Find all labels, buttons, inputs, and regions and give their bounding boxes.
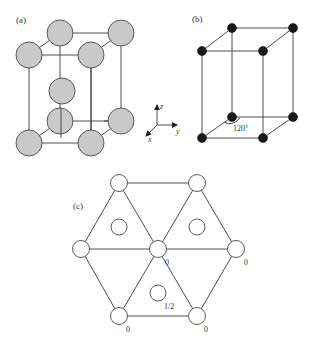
atom-interior-right	[189, 219, 205, 235]
atom-vertex	[189, 175, 206, 192]
panel-a-atoms	[16, 20, 134, 156]
coordinate-axes: z y x	[146, 102, 180, 144]
x-axis-label: x	[147, 135, 152, 144]
lattice-point	[259, 47, 268, 56]
y-axis-label: y	[175, 127, 180, 136]
atom-bottom-front-left	[16, 130, 42, 156]
atom-vertex	[73, 241, 90, 258]
height-label-right: 0	[244, 258, 248, 267]
panel-a-label: (a)	[16, 15, 26, 25]
lattice-point	[289, 24, 298, 33]
lattice-point	[198, 134, 207, 143]
atom-interior-left	[111, 219, 127, 235]
lattice-point	[228, 113, 237, 122]
atom-top-front-left	[16, 42, 42, 68]
crystal-structure-figure: (a)	[0, 0, 312, 343]
height-label-inner-bottom: 1/2	[164, 302, 174, 311]
panel-c: (c) 0 0	[73, 175, 249, 335]
atom-vertex	[228, 241, 245, 258]
lattice-point	[198, 47, 207, 56]
panel-c-label: (c)	[73, 201, 83, 211]
atom-top-front-right	[78, 42, 104, 68]
lattice-point	[228, 24, 237, 33]
atom-bottom-back-right	[108, 108, 134, 134]
atom-vertex	[111, 175, 128, 192]
lattice-point	[259, 134, 268, 143]
height-label-bottom-right: 0	[204, 325, 208, 334]
atom-top-back-left	[47, 20, 73, 46]
height-label-bottom-left: 0	[126, 325, 130, 334]
atom-bottom-back-left	[47, 108, 73, 134]
height-label-center: 0	[165, 258, 169, 267]
atom-vertex	[189, 308, 206, 325]
panel-c-height-labels: 0 0 0 0 1/2	[126, 258, 248, 334]
atom-vertex	[111, 308, 128, 325]
atom-interior-bottom	[150, 285, 166, 301]
panel-c-atoms	[73, 175, 245, 325]
angle-label: 120°	[233, 124, 248, 133]
atom-middle	[49, 78, 75, 104]
z-axis-label: z	[159, 102, 164, 111]
atom-bottom-front-right	[78, 130, 104, 156]
panel-b-edges	[202, 28, 293, 138]
atom-center	[150, 241, 167, 258]
lattice-point	[289, 113, 298, 122]
panel-a: (a)	[16, 15, 134, 156]
panel-b: (b) 120°	[192, 14, 298, 143]
atom-top-back-right	[108, 20, 134, 46]
panel-b-label: (b)	[192, 14, 203, 24]
